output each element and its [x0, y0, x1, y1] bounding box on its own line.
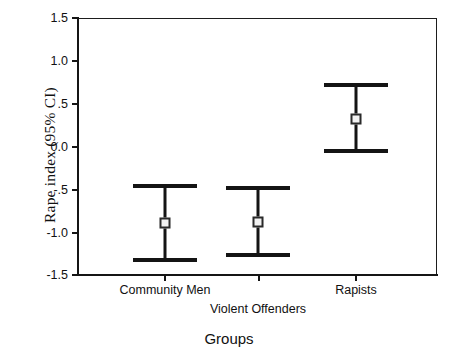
- x-tick-mark: [258, 275, 260, 281]
- error-bar-lower-cap: [226, 253, 290, 257]
- error-bar-upper-cap: [324, 83, 388, 87]
- y-tick-mark: [72, 189, 79, 191]
- error-bar-chart: Rape index (95% CI) 1.5 1.0 .5 0.0 -.5 -…: [0, 0, 458, 363]
- x-tick-label-rapists: Rapists: [335, 283, 377, 297]
- y-tick-label: -1.0: [26, 226, 68, 240]
- x-axis-title: Groups: [0, 330, 458, 347]
- y-tick-mark: [72, 60, 79, 62]
- y-tick-mark: [72, 232, 79, 234]
- error-bar-lower-cap: [324, 149, 388, 153]
- x-tick-mark: [355, 275, 357, 281]
- mean-marker-rapists: [351, 114, 362, 125]
- x-tick-mark: [164, 275, 166, 281]
- mean-marker-violent-offenders: [253, 217, 264, 228]
- mean-marker-community-men: [160, 218, 171, 229]
- y-tick-mark: [72, 146, 79, 148]
- y-tick-mark: [72, 17, 79, 19]
- y-tick-label: 0.0: [26, 140, 68, 154]
- error-bar-upper-cap: [226, 186, 290, 190]
- y-tick-mark: [72, 103, 79, 105]
- y-tick-label: 1.5: [26, 11, 68, 25]
- y-tick-label: -1.5: [26, 268, 68, 282]
- error-bar-lower-cap: [133, 258, 197, 262]
- y-tick-label: -.5: [26, 183, 68, 197]
- x-tick-label-community-men: Community Men: [120, 283, 211, 297]
- y-tick-label: .5: [26, 97, 68, 111]
- error-bar-upper-cap: [133, 184, 197, 188]
- y-tick-label: 1.0: [26, 54, 68, 68]
- y-tick-mark: [72, 274, 79, 276]
- x-tick-label-violent-offenders: Violent Offenders: [210, 302, 306, 316]
